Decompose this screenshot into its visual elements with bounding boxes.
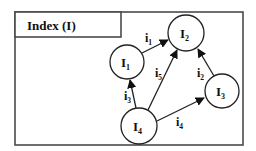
edge-i2 — [198, 49, 214, 76]
edge-i5 — [148, 50, 177, 110]
index-diagram: Index (I) i1 i2 i3 i4 i5 I1 I2 — [0, 0, 256, 151]
node-I4: I4 — [121, 108, 157, 144]
edge-label-i2: i2 — [197, 66, 204, 82]
node-I2: I2 — [168, 15, 204, 51]
edge-i4 — [157, 98, 204, 121]
edge-label-i3: i3 — [124, 89, 131, 105]
edge-label-i4: i4 — [176, 115, 183, 131]
edge-label-i5: i5 — [155, 66, 162, 82]
edge-label-i1: i1 — [145, 31, 152, 47]
node-I1: I1 — [110, 45, 144, 79]
diagram-title: Index (I) — [27, 18, 76, 33]
node-I3: I3 — [205, 74, 239, 108]
